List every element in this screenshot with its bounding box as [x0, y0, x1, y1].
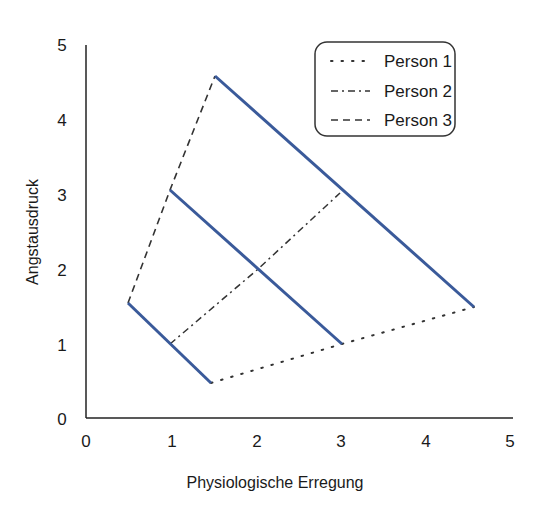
y-tick: 0 [57, 410, 66, 429]
legend-label-person-1: Person 1 [384, 52, 452, 71]
x-tick: 4 [421, 432, 430, 451]
legend-label-person-2: Person 2 [384, 82, 452, 101]
x-tick: 5 [505, 432, 514, 451]
x-axis-label: Physiologische Erregung [187, 474, 364, 491]
y-tick: 5 [57, 36, 66, 55]
y-tick: 3 [57, 186, 66, 205]
y-tick-labels: 5 4 3 2 1 0 [57, 36, 66, 429]
x-tick: 1 [167, 432, 176, 451]
chart: 5 4 3 2 1 0 0 1 2 3 4 5 Physiologische E… [0, 0, 546, 515]
y-tick: 1 [57, 336, 66, 355]
y-axis-label: Angstausdruck [24, 178, 41, 285]
legend: Person 1 Person 2 Person 3 [315, 42, 455, 136]
y-tick: 4 [57, 111, 66, 130]
x-tick: 3 [336, 432, 345, 451]
person-1-line [211, 307, 474, 383]
y-tick: 2 [57, 261, 66, 280]
x-tick-labels: 0 1 2 3 4 5 [81, 432, 514, 451]
iso-line-low [128, 303, 211, 383]
x-tick: 2 [252, 432, 261, 451]
legend-label-person-3: Person 3 [384, 111, 452, 130]
iso-line-mid [170, 190, 342, 344]
x-tick: 0 [81, 432, 90, 451]
